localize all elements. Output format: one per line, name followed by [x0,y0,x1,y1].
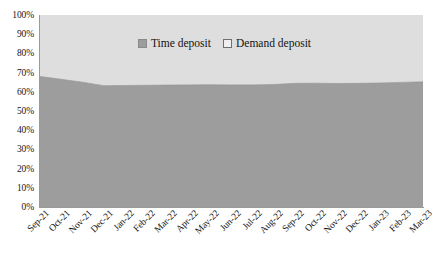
legend-swatch-icon [138,39,147,48]
y-axis-tick-label: 20% [0,164,34,174]
y-axis-tick-label: 80% [0,48,34,58]
legend-item-label: Time deposit [151,37,211,49]
y-axis-tick-label: 100% [0,10,34,20]
legend-item-label: Demand deposit [236,37,311,49]
y-axis-tick-label: 60% [0,87,34,97]
y-axis-tick-label: 70% [0,68,34,78]
legend-swatch-icon [223,39,232,48]
x-axis: Sep-21Oct-21Nov-21Dec-21Jan-22Feb-22Mar-… [40,208,423,274]
area-demand-deposit [40,15,423,86]
y-axis-tick-label: 50% [0,106,34,116]
stacked-area-chart: 100%90%80%70%60%50%40%30%20%10%0% Time d… [0,0,444,274]
y-axis-tick-label: 10% [0,183,34,193]
legend-item[interactable]: Demand deposit [223,37,311,49]
y-axis-tick-label: 90% [0,29,34,39]
y-axis-tick-label: 30% [0,144,34,154]
area-time-deposit [40,76,423,207]
y-axis-tick-label: 40% [0,125,34,135]
y-axis-tick-label: 0% [0,202,34,212]
legend-item[interactable]: Time deposit [138,37,211,49]
chart-legend: Time depositDemand deposit [138,37,311,49]
